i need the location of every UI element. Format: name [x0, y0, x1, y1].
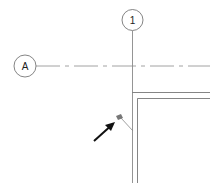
grid-bubble-1-label: 1: [130, 15, 136, 26]
drawing-canvas: 1 A: [0, 0, 210, 189]
grid-bubble-a[interactable]: A: [14, 55, 36, 77]
pointer-arrow-icon: [94, 122, 115, 141]
wall[interactable]: [133, 93, 211, 184]
element-tag[interactable]: [116, 114, 133, 131]
tag-leader-line: [121, 118, 133, 131]
grid-bubble-a-label: A: [22, 61, 29, 72]
grid-bubble-1[interactable]: 1: [122, 10, 143, 31]
